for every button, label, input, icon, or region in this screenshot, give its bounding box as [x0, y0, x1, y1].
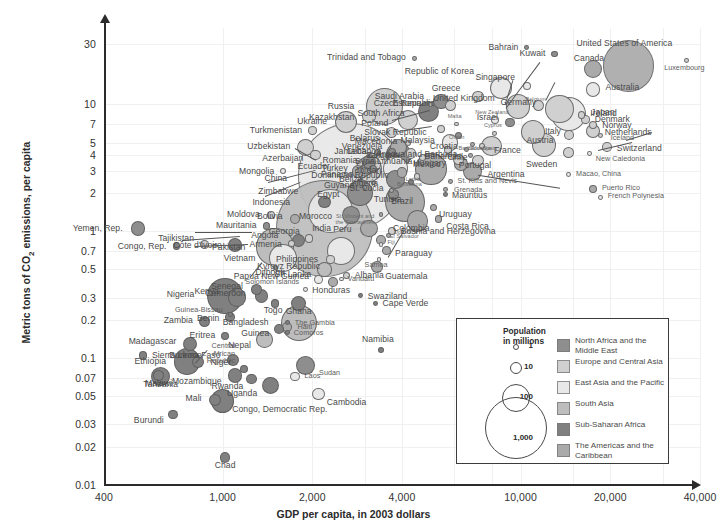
y-axis-tick-label: 0.7	[36, 245, 96, 257]
bubble-cape-verde[interactable]	[373, 301, 378, 306]
country-label-botswana: Botswana	[397, 182, 422, 188]
country-label-laos: Laos	[305, 372, 321, 380]
country-label-costa-rica: Costa Rica	[446, 222, 489, 231]
bubble-the-gambia[interactable]	[285, 320, 290, 325]
country-label-bangladesh: Bangladesh	[223, 318, 269, 327]
country-label-mongolia: Mongolia	[239, 167, 274, 176]
y-axis-tick-label: 0.3	[36, 292, 96, 304]
country-label-honduras: Honduras	[312, 286, 350, 295]
x-axis-arrow-icon	[692, 480, 701, 490]
legend-region-label-0: North Africa and the Middle East	[575, 336, 671, 356]
bubble-mauritius[interactable]	[443, 192, 448, 197]
legend-swatch-2	[557, 381, 570, 394]
country-label-mauritania: Mauritania	[216, 221, 257, 230]
country-label-paraguay: Paraguay	[395, 249, 432, 258]
y-axis-title-text: Metric tons of CO	[20, 256, 32, 344]
country-label-yemen-rep: Yemen, Rep.	[73, 224, 123, 233]
country-label-nigeria: Nigeria	[167, 290, 195, 299]
country-label-kazakhstan: Kazakhstan	[309, 113, 354, 122]
bubble-iceland[interactable]	[598, 133, 603, 138]
x-axis-tick-label: 10,000	[481, 491, 561, 503]
country-label-italy: Italy	[545, 127, 561, 136]
country-label-eritrea: Eritrea	[190, 331, 216, 340]
y-axis-tick-label: 0.01	[36, 479, 96, 491]
bubble-armenia[interactable]	[288, 240, 295, 247]
country-label-uzbekistan: Uzbekistan	[247, 142, 290, 151]
gridline-vertical	[700, 28, 701, 485]
y-axis-tick-label: 2	[36, 187, 96, 199]
bubble-st-kitts-and-nevis[interactable]	[448, 179, 453, 184]
country-label-zambia: Zambia	[164, 316, 193, 325]
country-label-guatemala: Guatemala	[385, 272, 428, 281]
bubble-kuwait[interactable]	[551, 51, 557, 57]
country-label-benin: Benin	[197, 314, 219, 323]
legend-size-label-1: 1	[499, 341, 533, 350]
y-axis-tick-label: 0.07	[36, 372, 96, 384]
legend-region-label-2: East Asia and the Pacific	[575, 378, 671, 388]
bubble-georgia[interactable]	[305, 234, 313, 242]
country-label-sierra-leone: Sierra Leone	[152, 351, 202, 360]
country-label-trinidad-and-tobago: Trinidad and Tobago	[327, 53, 406, 62]
country-label-slovak-republic: Slovak Republic	[364, 128, 426, 137]
x-axis-tick-label: 40,000	[660, 491, 721, 503]
country-label-sudan: Sudan	[319, 369, 340, 377]
bubble-laos[interactable]	[290, 372, 299, 381]
country-label-namibia: Namibia	[362, 335, 394, 344]
legend-size-title-line1: Population	[503, 326, 546, 336]
x-axis-tick-label: 1,000	[183, 491, 263, 503]
legend-size-label-10: 10	[499, 362, 533, 371]
bubble-new-caledonia[interactable]	[587, 151, 592, 156]
bubble-solomon-islands[interactable]	[303, 287, 308, 292]
bubble-rwanda[interactable]	[246, 374, 256, 384]
y-axis-tick-label: 0.1	[36, 352, 96, 364]
country-label-bolivia: Bolivia	[257, 212, 283, 221]
country-label-india: India	[312, 224, 331, 233]
bubble-uganda[interactable]	[262, 377, 279, 394]
bubble-eritrea[interactable]	[221, 332, 229, 340]
country-label-oman: Oman	[449, 135, 464, 141]
bubble-french-polynesia[interactable]	[598, 195, 603, 200]
bubble-israel[interactable]	[505, 118, 515, 128]
bubble-central-african-republic[interactable]	[240, 365, 248, 373]
country-label-french-polynesia: French Polynesia	[608, 192, 664, 200]
bubble-comoros[interactable]	[285, 330, 290, 335]
y-axis-tick-label: 0.2	[36, 314, 96, 326]
country-label-nepal: Nepal	[228, 341, 251, 350]
country-label-the-gambia: The Gambia	[295, 319, 335, 327]
legend-swatch-0	[557, 339, 570, 352]
country-label-armenia: Armenia	[249, 240, 281, 249]
country-label-united-kingdom: United Kingdom	[433, 94, 495, 103]
country-label-moldova: Moldova	[227, 210, 260, 219]
country-label-canada: Canada	[574, 54, 604, 63]
country-label-kuwait: Kuwait	[519, 49, 545, 58]
country-label-luxembourg: Luxembourg	[664, 64, 704, 72]
x-axis-tick-label: 20,000	[570, 491, 650, 503]
y-axis-title: Metric tons of CO2 emissions, per capita	[20, 33, 35, 453]
country-label-france: France	[494, 146, 521, 155]
bubble-germany[interactable]	[545, 95, 573, 123]
bubble-mali[interactable]	[209, 394, 221, 406]
bubble-vanuatu[interactable]	[339, 277, 344, 282]
country-label-albania: Albania	[355, 271, 384, 280]
country-label-madagascar: Madagascar	[129, 337, 177, 346]
bubble-kyrgyz-republic[interactable]	[326, 255, 334, 263]
bubble-papua-new-guinea[interactable]	[314, 275, 323, 284]
y-axis-title-text-2: emissions, per capita	[20, 142, 32, 252]
country-label-algeria: Algeria	[351, 179, 378, 188]
country-label-mali: Mali	[186, 394, 202, 403]
gridline-vertical-minor	[365, 28, 366, 485]
bubble-burundi[interactable]	[168, 410, 178, 420]
bubble-yemen-rep[interactable]	[131, 221, 146, 236]
legend-swatch-1	[557, 360, 570, 373]
country-label-south-africa: South Africa	[358, 109, 405, 118]
bubble-cambodia[interactable]	[312, 388, 324, 400]
y-axis-tick-label: 10	[36, 98, 96, 110]
bubble-puerto-rico[interactable]	[589, 185, 597, 193]
bubble-uruguay[interactable]	[430, 204, 437, 211]
x-axis-title: GDP per capita, in 2003 dollars	[0, 508, 707, 520]
country-label-congo-democratic-rep: Congo, Democratic Rep.	[232, 405, 327, 414]
bubble-sweden[interactable]	[563, 147, 574, 158]
bubble-trinidad-and-tobago[interactable]	[412, 56, 417, 61]
bubble-grenada[interactable]	[443, 187, 448, 192]
bubble-turkmenistan[interactable]	[308, 126, 316, 134]
